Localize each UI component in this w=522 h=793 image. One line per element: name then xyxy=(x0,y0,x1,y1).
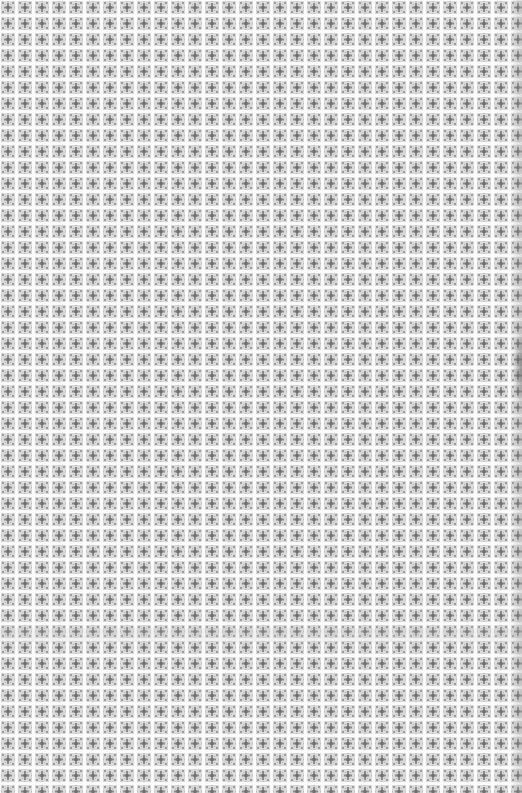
right-edge-smudge xyxy=(514,330,522,405)
tile-pattern xyxy=(0,0,522,793)
pattern-canvas xyxy=(0,0,522,793)
faint-horizontal-band xyxy=(0,628,522,642)
